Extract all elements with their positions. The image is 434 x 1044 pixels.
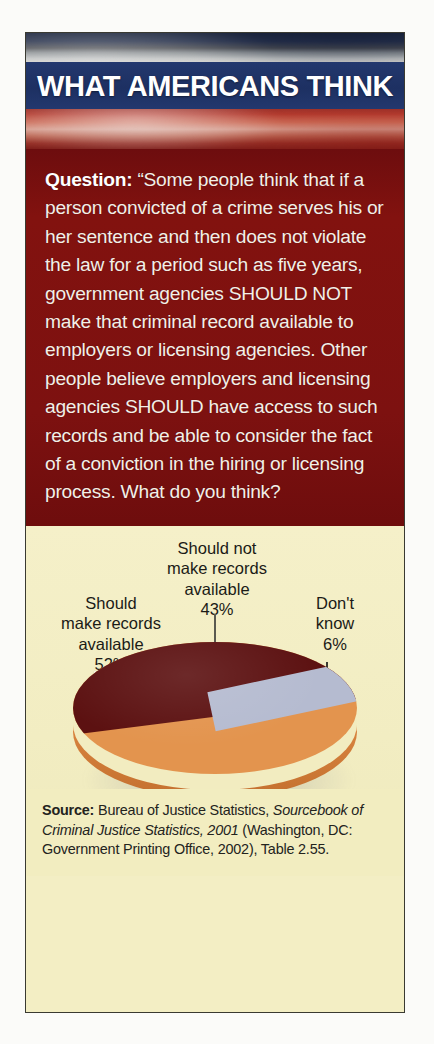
header-banner: WHAT AMERICANS THINK <box>26 33 404 149</box>
page-title: WHAT AMERICANS THINK <box>26 64 404 109</box>
pie-top-face <box>73 642 357 774</box>
source-paragraph: Source: Bureau of Justice Statistics, So… <box>42 801 388 860</box>
question-body: “Some people think that if a person conv… <box>45 169 383 502</box>
page-root: WHAT AMERICANS THINK Question: “Some peo… <box>0 0 434 1044</box>
infographic-panel: WHAT AMERICANS THINK Question: “Some peo… <box>26 33 404 1012</box>
question-label: Question: <box>45 169 132 190</box>
source-label: Source: <box>42 802 94 818</box>
question-paragraph: Question: “Some people think that if a p… <box>45 166 385 507</box>
source-block: Source: Bureau of Justice Statistics, So… <box>26 789 404 876</box>
pie-chart-area: Should make records available 52% Should… <box>26 526 404 876</box>
question-block: Question: “Some people think that if a p… <box>26 149 404 526</box>
source-part-one: Bureau of Justice Statistics, <box>94 802 273 818</box>
pie-label-should-not-make-records: Should not make records available 43% <box>142 538 292 620</box>
